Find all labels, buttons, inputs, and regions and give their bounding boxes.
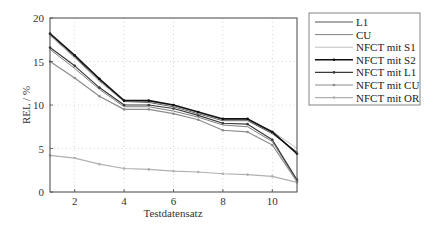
- data-point-marker: [98, 163, 101, 166]
- legend-label-nfct-mit-s2: NFCT mit S2: [356, 54, 416, 66]
- data-point-marker: [246, 123, 249, 126]
- legend-label-nfct-mit-cu: NFCT mit CU: [356, 79, 419, 91]
- data-point-marker: [123, 108, 126, 111]
- legend-label-nfct-mit-or: NFCT mit OR: [356, 92, 420, 104]
- data-point-marker: [123, 99, 126, 102]
- data-point-marker: [148, 99, 151, 102]
- data-point-marker: [197, 118, 200, 121]
- data-point-marker: [73, 65, 76, 68]
- legend-marker: [333, 71, 336, 74]
- y-tick-label: 20: [33, 12, 45, 24]
- series-line-nfct-mit-s2: [50, 34, 297, 154]
- data-point-marker: [123, 167, 126, 170]
- data-point-marker: [222, 122, 225, 125]
- legend-label-nfct-mit-l1: NFCT mit L1: [356, 66, 416, 78]
- y-tick-label: 15: [33, 56, 45, 68]
- y-axis-label: REL / %: [20, 86, 32, 124]
- legend-label-nfct-mit-s1: NFCT mit S1: [356, 41, 416, 53]
- data-series: [49, 32, 299, 183]
- data-point-marker: [172, 107, 175, 110]
- data-point-marker: [271, 144, 274, 147]
- x-tick-label: 10: [267, 195, 279, 207]
- data-point-marker: [73, 77, 76, 80]
- line-chart: 246810 05101520 Testdatensatz REL / % L1…: [0, 0, 436, 225]
- data-point-marker: [172, 112, 175, 115]
- data-point-marker: [73, 54, 76, 57]
- y-tick-label: 10: [33, 99, 45, 111]
- x-axis-label: Testdatensatz: [143, 207, 202, 219]
- data-point-marker: [246, 118, 249, 121]
- data-point-marker: [222, 129, 225, 132]
- y-tick-label: 5: [39, 143, 45, 155]
- x-tick-label: 6: [171, 195, 177, 207]
- legend-label-l1: L1: [356, 16, 368, 28]
- x-tick-label: 2: [72, 195, 78, 207]
- data-point-marker: [197, 171, 200, 174]
- data-point-marker: [246, 131, 249, 134]
- data-point-marker: [222, 172, 225, 175]
- x-tick-label: 4: [121, 195, 127, 207]
- x-tick-label: 8: [220, 195, 226, 207]
- legend-label-cu: CU: [356, 29, 371, 41]
- data-point-marker: [98, 78, 101, 81]
- data-point-marker: [148, 108, 151, 111]
- data-point-marker: [197, 114, 200, 117]
- legend-marker: [333, 84, 336, 87]
- legend-marker: [333, 96, 336, 99]
- data-point-marker: [271, 131, 274, 134]
- legend-marker: [333, 59, 336, 62]
- legend: L1CUNFCT mit S1NFCT mit S2NFCT mit L1NFC…: [309, 13, 420, 105]
- data-point-marker: [98, 95, 101, 98]
- data-point-marker: [148, 168, 151, 171]
- data-point-marker: [271, 175, 274, 178]
- data-point-marker: [148, 104, 151, 107]
- data-point-marker: [172, 104, 175, 107]
- data-point-marker: [246, 173, 249, 176]
- data-point-marker: [222, 118, 225, 121]
- data-point-marker: [123, 104, 126, 107]
- data-point-marker: [73, 157, 76, 160]
- y-tick-label: 0: [39, 186, 45, 198]
- data-point-marker: [271, 139, 274, 142]
- data-point-marker: [172, 170, 175, 173]
- data-point-marker: [98, 86, 101, 89]
- data-point-marker: [197, 111, 200, 114]
